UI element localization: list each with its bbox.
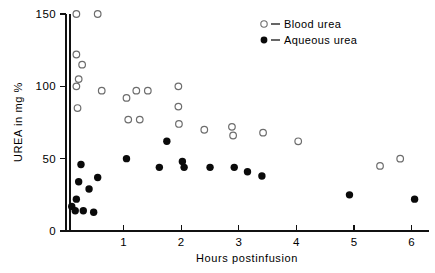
x-axis-ticks: 123456 <box>120 225 415 248</box>
data-point-blood-urea <box>175 83 182 90</box>
data-point-blood-urea <box>133 87 140 94</box>
data-point-blood-urea <box>75 76 82 83</box>
data-point-aqueous-urea <box>90 208 97 215</box>
scatter-chart-figure: 123456 050100150 Hours postinfusion UREA… <box>0 0 435 273</box>
data-point-blood-urea <box>229 124 236 131</box>
data-point-blood-urea <box>201 126 208 133</box>
data-point-aqueous-urea <box>75 178 82 185</box>
data-point-aqueous-urea <box>231 164 238 171</box>
x-tick-label: 1 <box>120 236 127 248</box>
y-axis-ticks: 050100150 <box>36 8 66 237</box>
data-point-aqueous-urea <box>180 164 187 171</box>
data-point-aqueous-urea <box>85 185 92 192</box>
x-tick-label: 2 <box>178 236 185 248</box>
data-point-aqueous-urea <box>72 207 79 214</box>
data-point-aqueous-urea <box>156 164 163 171</box>
data-point-blood-urea <box>397 155 404 162</box>
data-point-blood-urea <box>260 129 267 136</box>
data-point-blood-urea <box>79 61 86 68</box>
legend-label-aqueous-urea: Aqueous urea <box>284 34 358 46</box>
y-tick-label: 50 <box>42 153 56 165</box>
data-point-aqueous-urea <box>411 195 418 202</box>
data-point-blood-urea <box>175 103 182 110</box>
data-point-aqueous-urea <box>346 191 353 198</box>
data-point-blood-urea <box>230 132 237 139</box>
data-point-blood-urea <box>125 116 132 123</box>
plot-canvas: 123456 050100150 Hours postinfusion UREA… <box>0 0 435 273</box>
y-axis-title: UREA in mg % <box>12 82 24 162</box>
data-point-blood-urea <box>176 121 183 128</box>
x-tick-label: 5 <box>351 236 358 248</box>
data-point-blood-urea <box>73 83 80 90</box>
data-point-aqueous-urea <box>80 207 87 214</box>
data-point-aqueous-urea <box>206 164 213 171</box>
data-point-blood-urea <box>74 105 81 112</box>
x-tick-label: 3 <box>235 236 242 248</box>
x-axis-title: Hours postinfusion <box>196 252 298 264</box>
legend-label-blood-urea: Blood urea <box>284 18 342 30</box>
x-tick-label: 4 <box>293 236 300 248</box>
y-tick-label: 100 <box>36 80 56 92</box>
x-tick-label: 6 <box>408 236 415 248</box>
data-point-aqueous-urea <box>73 195 80 202</box>
data-points-group <box>68 11 418 216</box>
data-point-blood-urea <box>377 163 384 170</box>
data-point-blood-urea <box>136 116 143 123</box>
legend-filled-circle-icon <box>261 37 268 44</box>
data-point-blood-urea <box>94 11 101 18</box>
data-point-aqueous-urea <box>244 168 251 175</box>
data-point-aqueous-urea <box>77 161 84 168</box>
y-tick-label: 150 <box>36 8 56 20</box>
data-point-aqueous-urea <box>163 138 170 145</box>
axes-group <box>66 14 429 231</box>
data-point-blood-urea <box>295 138 302 145</box>
data-point-aqueous-urea <box>123 155 130 162</box>
y-tick-label: 0 <box>49 225 56 237</box>
data-point-aqueous-urea <box>258 172 265 179</box>
data-point-blood-urea <box>98 87 105 94</box>
data-point-blood-urea <box>73 51 80 58</box>
legend-open-circle-icon <box>261 21 267 27</box>
data-point-blood-urea <box>73 11 80 18</box>
data-point-aqueous-urea <box>94 174 101 181</box>
data-point-blood-urea <box>123 95 130 102</box>
legend: Blood urea Aqueous urea <box>261 18 358 46</box>
data-point-blood-urea <box>145 87 152 94</box>
